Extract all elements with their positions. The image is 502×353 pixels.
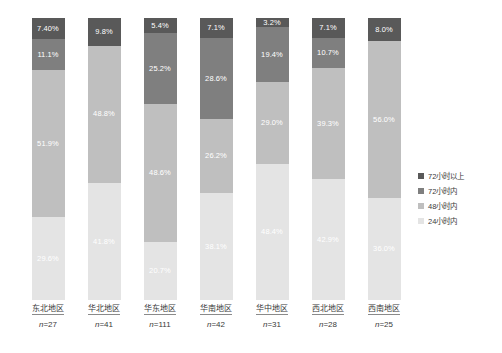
bar-segment[interactable]: 41.8% [88, 183, 121, 300]
legend-item[interactable]: 48小时内 [418, 200, 464, 211]
sample-size-value: =41 [99, 320, 113, 329]
bar-segment[interactable]: 9.8% [88, 18, 121, 46]
x-axis-tick: 东北地区n=27 [22, 302, 74, 329]
stacked-bar[interactable]: 8.0%56.0%36.0% [368, 18, 401, 300]
sample-size-label: n=28 [319, 320, 337, 329]
plot-area: 7.40%11.1%51.9%29.6%9.8%48.8%41.8%5.4%25… [22, 18, 410, 300]
sample-size-value: =28 [323, 320, 337, 329]
sample-size-label: n=31 [263, 320, 281, 329]
legend-item[interactable]: 72小时内 [418, 185, 464, 196]
sample-size-value: =27 [43, 320, 57, 329]
stacked-bar[interactable]: 7.40%11.1%51.9%29.6% [32, 18, 65, 300]
legend-item-label: 48小时内 [428, 200, 457, 211]
bar-segment[interactable]: 25.2% [144, 33, 177, 104]
bar-group: 8.0%56.0%36.0% [358, 18, 410, 300]
x-axis-labels: 东北地区n=27华北地区n=41华东地区n=111华南地区n=42华中地区n=3… [22, 302, 410, 329]
legend-swatch-icon [418, 173, 424, 179]
legend-item[interactable]: 72小时以上 [418, 170, 464, 181]
bar-group: 7.1%28.6%26.2%38.1% [190, 18, 242, 300]
x-axis-tick: 华东地区n=111 [134, 302, 186, 329]
bar-group: 9.8%48.8%41.8% [78, 18, 130, 300]
bar-segment[interactable]: 10.7% [312, 38, 345, 68]
chart-legend: 72小时以上72小时内48小时内24小时内 [418, 170, 464, 226]
x-axis-category-label: 华中地区 [256, 302, 288, 315]
bar-group: 5.4%25.2%48.6%20.7% [134, 18, 186, 300]
x-axis-tick: 西南地区n=25 [358, 302, 410, 329]
sample-size-value: =25 [379, 320, 393, 329]
stacked-bar[interactable]: 7.1%28.6%26.2%38.1% [200, 18, 233, 300]
stacked-bar-chart: 7.40%11.1%51.9%29.6%9.8%48.8%41.8%5.4%25… [0, 0, 502, 353]
legend-swatch-icon [418, 218, 424, 224]
bar-segment[interactable]: 38.1% [200, 193, 233, 300]
legend-item-label: 72小时内 [428, 185, 457, 196]
x-axis-tick: 华南地区n=42 [190, 302, 242, 329]
bar-group: 7.40%11.1%51.9%29.6% [22, 18, 74, 300]
bar-segment[interactable]: 5.4% [144, 18, 177, 33]
bar-segment[interactable]: 7.1% [200, 18, 233, 38]
stacked-bar[interactable]: 5.4%25.2%48.6%20.7% [144, 18, 177, 300]
bar-segment[interactable]: 48.8% [88, 46, 121, 183]
bar-segment[interactable]: 39.3% [312, 68, 345, 179]
sample-size-value: =42 [211, 320, 225, 329]
bar-segment[interactable]: 20.7% [144, 242, 177, 300]
sample-size-label: n=41 [95, 320, 113, 329]
x-axis-category-label: 华北地区 [88, 302, 120, 315]
sample-size-label: n=27 [39, 320, 57, 329]
bar-segment[interactable]: 48.4% [256, 164, 289, 300]
bar-segment[interactable]: 7.1% [312, 18, 345, 38]
legend-swatch-icon [418, 188, 424, 194]
bar-segment[interactable]: 19.4% [256, 27, 289, 82]
bar-group: 7.1%10.7%39.3%42.9% [302, 18, 354, 300]
bar-segment[interactable]: 51.9% [32, 70, 65, 216]
x-axis-category-label: 东北地区 [32, 302, 64, 315]
bar-segment[interactable]: 56.0% [368, 41, 401, 199]
stacked-bar[interactable]: 7.1%10.7%39.3%42.9% [312, 18, 345, 300]
x-axis-category-label: 华南地区 [200, 302, 232, 315]
x-axis-category-label: 华东地区 [144, 302, 176, 315]
legend-item[interactable]: 24小时内 [418, 215, 464, 226]
legend-item-label: 72小时以上 [428, 170, 464, 181]
bar-segment[interactable]: 11.1% [32, 39, 65, 70]
x-axis-category-label: 西北地区 [312, 302, 344, 315]
sample-size-value: =31 [267, 320, 281, 329]
x-axis-tick: 华中地区n=31 [246, 302, 298, 329]
bar-segment[interactable]: 42.9% [312, 179, 345, 300]
x-axis-category-label: 西南地区 [368, 302, 400, 315]
bar-segment[interactable]: 3.2% [256, 18, 289, 27]
stacked-bar[interactable]: 3.2%19.4%29.0%48.4% [256, 18, 289, 300]
legend-item-label: 24小时内 [428, 215, 457, 226]
sample-size-label: n=111 [149, 320, 170, 329]
legend-swatch-icon [418, 203, 424, 209]
bar-segment[interactable]: 29.6% [32, 217, 65, 300]
bar-segment[interactable]: 36.0% [368, 198, 401, 300]
x-axis-tick: 西北地区n=28 [302, 302, 354, 329]
bar-segment[interactable]: 29.0% [256, 82, 289, 164]
bar-segment[interactable]: 8.0% [368, 18, 401, 41]
bar-segment[interactable]: 28.6% [200, 38, 233, 119]
x-axis-tick: 华北地区n=41 [78, 302, 130, 329]
sample-size-value: =111 [154, 320, 171, 329]
bar-segment[interactable]: 26.2% [200, 119, 233, 193]
bar-segment[interactable]: 48.6% [144, 104, 177, 241]
stacked-bar[interactable]: 9.8%48.8%41.8% [88, 18, 121, 300]
sample-size-label: n=25 [375, 320, 393, 329]
bar-group: 3.2%19.4%29.0%48.4% [246, 18, 298, 300]
sample-size-label: n=42 [207, 320, 225, 329]
bar-segment[interactable]: 7.40% [32, 18, 65, 39]
